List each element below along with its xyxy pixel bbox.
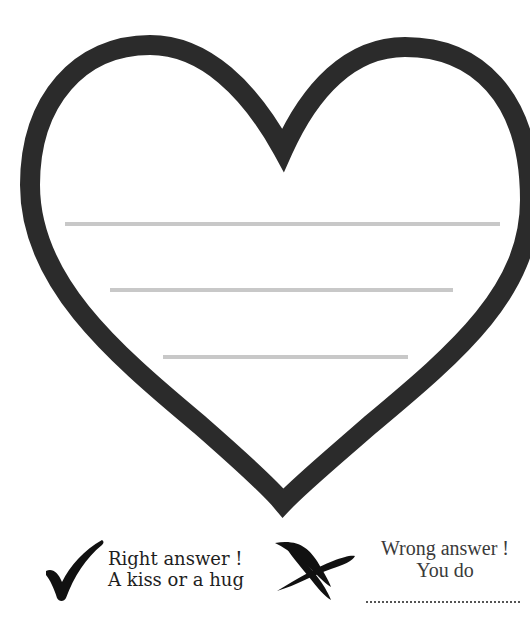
right-answer-line2: A kiss or a hug bbox=[108, 569, 244, 590]
right-answer-line1: Right answer ! bbox=[108, 548, 244, 569]
cross-icon bbox=[275, 537, 355, 601]
wrong-answer-text: Wrong answer ! You do bbox=[360, 537, 530, 581]
checkmark-icon bbox=[44, 538, 106, 602]
right-answer-text: Right answer ! A kiss or a hug bbox=[108, 548, 244, 590]
wrong-answer-line2: You do bbox=[360, 559, 530, 581]
wrong-answer-line1: Wrong answer ! bbox=[360, 537, 530, 559]
wrong-answer-blank[interactable] bbox=[366, 601, 520, 603]
heart-shape bbox=[30, 45, 530, 503]
